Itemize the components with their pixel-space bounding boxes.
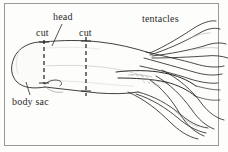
tentacles-group [116,21,228,139]
label-head: head [53,12,73,22]
label-tentacles: tentacles [142,14,179,24]
head-leader-line [52,24,62,46]
figure-root: head cut cut tentacles body sac [0,0,228,152]
label-cut-posterior: cut [79,28,92,38]
label-body-sac: body sac [12,97,49,107]
body-sac-shape [12,42,45,88]
squid-diagram-svg [0,0,228,152]
label-cut-anterior: cut [36,28,49,38]
mantle-body-shape [44,41,150,94]
